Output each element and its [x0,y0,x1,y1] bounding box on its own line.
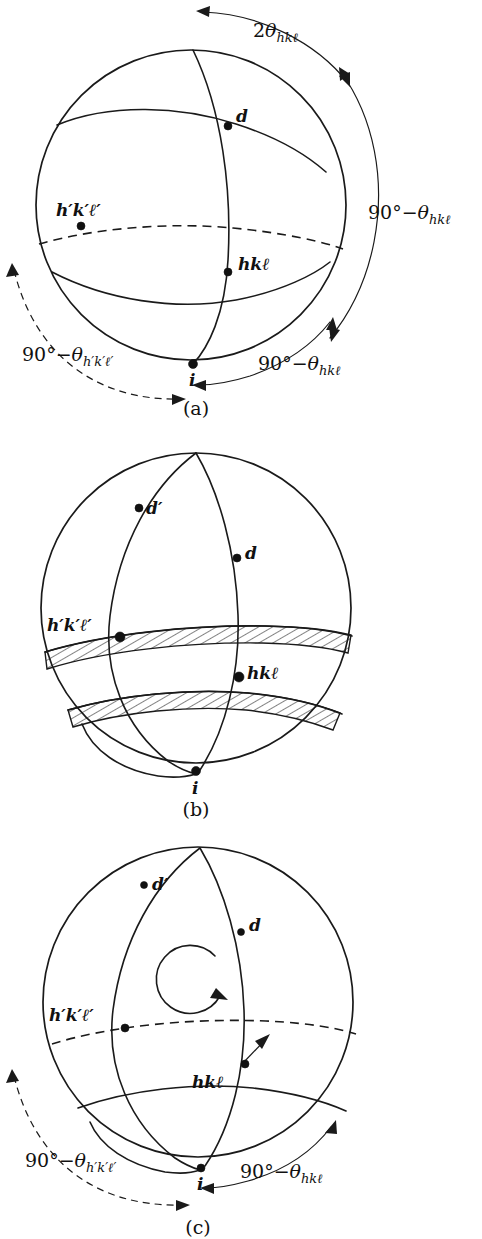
sphere-outline-c [43,847,353,1157]
point-label-d-b: d [245,543,257,563]
angle-arc-ninety-prime-a [14,270,180,399]
angle-prefix-ninety-right: 90°− [368,201,418,223]
arrowhead-ninety-right-c [325,1120,337,1134]
angle-theta-two-theta: θ [265,19,277,41]
angle-sub-ninety-prime: h′k′ℓ′ [83,354,113,369]
arrowhead-ninety-prime-top-a [6,263,19,277]
point-label-hkl-a: hkℓ [238,254,269,274]
meridian-great-circle-right-c [200,848,244,1166]
rotation-arrow-arc-c [156,945,220,1013]
point-dot-d-prime-b [135,504,143,512]
angle-label-two-theta-a: 2θhkℓ [253,19,299,45]
point-dot-hkl-a [224,268,232,276]
point-label-i-a: i [189,370,195,390]
point-dot-hkl-b [234,672,244,682]
angle-theta-ninety-prime-c: θ [75,1149,87,1171]
panel-a: d hkℓ h′k′ℓ′ i 2θhkℓ 90°−θhkℓ 90°−θhkℓ 9… [0,0,482,420]
angle-arc-ninety-prime-c [14,1076,182,1205]
angle-prefix-ninety-prime-c: 90°− [25,1149,75,1171]
point-dot-hkl-prime-b [115,632,125,642]
meridian-great-circle-a [193,50,229,364]
point-dot-hkl-prime-c [121,1024,129,1032]
point-dot-hkl-prime-a [77,222,85,230]
arrowhead-ninety-prime-top-c [6,1069,19,1083]
point-label-i-c: i [197,1174,203,1194]
angle-theta-ninety-prime: θ [72,343,84,365]
point-label-d-prime-c: d′ [152,874,169,894]
figure-root: d hkℓ h′k′ℓ′ i 2θhkℓ 90°−θhkℓ 90°−θhkℓ 9… [0,0,482,1239]
point-dot-i-c [197,1164,205,1172]
panel-caption-a: (a) [183,397,209,419]
angle-sub-ninety-right: hkℓ [429,212,451,227]
point-label-hkl-prime-b: h′k′ℓ′ [47,615,92,635]
panel-caption-c: (c) [185,1216,210,1238]
dashed-small-circle-c [52,1020,356,1044]
arrowhead-two-theta-left-a [196,6,210,17]
diffraction-arrowhead-c [255,1034,270,1049]
point-label-hkl-b: hkℓ [247,663,278,683]
panel-b: d′ d h′k′ℓ′ hkℓ i (b) [0,420,482,820]
angle-prefix-ninety-c: 90°− [240,1160,290,1182]
point-dot-i-a [189,360,198,369]
angle-label-ninety-right-a: 90°−θhkℓ [368,201,451,227]
angle-sub-ninety-c: hkℓ [301,1171,323,1186]
arrowhead-ninety-prime-right-c [176,1200,190,1211]
angle-label-ninety-c: 90°−θhkℓ [240,1160,323,1186]
point-label-hkl-c: hkℓ [192,1072,223,1092]
angle-theta-ninety-c: θ [290,1160,302,1182]
rotation-arrowhead-c [210,988,228,1000]
dashed-small-circle-a [39,226,343,249]
angle-prefix-two-theta: 2 [253,19,265,41]
angle-sub-two-theta: hkℓ [277,30,299,45]
point-dot-d-c [238,929,245,936]
point-dot-d-prime-c [141,882,148,889]
angle-theta-ninety-bottom: θ [308,352,320,374]
arrowhead-ninety-bottom-right-a [326,317,337,330]
small-circle-upper-a [57,109,326,172]
point-label-hkl-prime-a: h′k′ℓ′ [56,200,101,220]
point-label-d-prime-b: d′ [146,498,163,518]
point-label-d-c: d [249,915,261,935]
point-label-d-a: d [236,106,248,126]
angle-label-ninety-bottom-a: 90°−θhkℓ [258,352,341,378]
small-circle-lower-a [52,262,330,304]
angle-prefix-ninety-bottom: 90°− [258,352,308,374]
point-dot-d-a [224,122,232,130]
point-dot-d-b [233,554,241,562]
point-label-hkl-prime-c: h′k′ℓ′ [49,1005,94,1025]
angle-prefix-ninety-prime: 90°− [22,343,72,365]
point-dot-i-b [192,767,201,776]
panel-c: d′ d h′k′ℓ′ hkℓ i 90°−θh′k′ℓ′ 90°−θhkℓ (… [0,812,482,1239]
meridian-great-circle-right-b [196,453,238,770]
angle-theta-ninety-right: θ [418,201,430,223]
angle-sub-ninety-bottom: hkℓ [319,363,341,378]
angle-label-ninety-prime-a: 90°−θh′k′ℓ′ [22,343,113,369]
point-label-i-b: i [192,778,198,798]
angle-sub-ninety-prime-c: h′k′ℓ′ [86,1160,116,1175]
meridian-great-circle-left-c [112,848,200,1170]
point-dot-hkl-c [241,1060,249,1068]
